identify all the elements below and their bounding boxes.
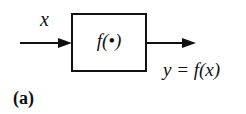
function-label: f(•) [73, 30, 145, 52]
output-arrow [146, 38, 196, 48]
input-arrow [20, 38, 72, 48]
input-label: x [40, 8, 49, 31]
function-block: f(•) [71, 13, 147, 72]
panel-label: (a) [13, 88, 34, 109]
output-label: y = f(x) [163, 59, 220, 81]
